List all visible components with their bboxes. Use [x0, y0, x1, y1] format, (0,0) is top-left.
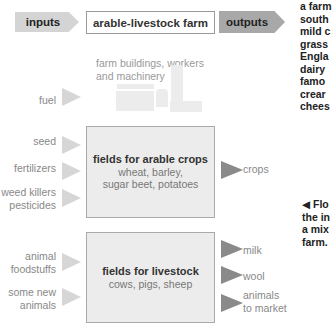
- seed-input-arrow-icon: [62, 136, 81, 154]
- fertilizers-input-arrow-icon: [62, 162, 81, 180]
- label-line: to market: [243, 302, 287, 315]
- arable-box-title: fields for arable crops: [93, 153, 208, 166]
- fuel-input-arrow-icon: [62, 88, 81, 106]
- label-line: animal: [11, 250, 56, 263]
- arable-box-line: sugar beet, potatoes: [103, 178, 199, 191]
- output-label-animals-to-market: animals to market: [243, 289, 287, 314]
- milk-output-arrow-icon: [221, 240, 243, 258]
- output-label-milk: milk: [243, 244, 262, 257]
- inputs-header-arrow: inputs: [15, 12, 79, 32]
- label-line: weed killers: [1, 186, 56, 199]
- caption-line: farm.: [302, 236, 330, 249]
- input-label-seed: seed: [33, 135, 56, 148]
- silo-icon: [171, 65, 183, 101]
- label-line: fertilizers: [14, 162, 56, 175]
- side-line: famo: [300, 75, 332, 88]
- inputs-header-label: inputs: [26, 16, 61, 28]
- diagram-title: arable-livestock farm: [86, 11, 215, 34]
- barn-icon: [116, 91, 154, 111]
- side-line: a farm: [300, 0, 332, 13]
- input-label-weed-killers: weed killers pesticides: [1, 186, 56, 211]
- farm-buildings-label: farm buildings, workers and machinery: [96, 57, 204, 83]
- diagram-title-text: arable-livestock farm: [93, 17, 208, 29]
- caption-line: ◀ Flo: [302, 198, 330, 211]
- side-line: dairy: [300, 63, 332, 76]
- label-line: foodstuffs: [11, 263, 56, 276]
- side-line: mild c: [300, 25, 332, 38]
- input-label-fuel: fuel: [39, 94, 56, 107]
- farm-buildings-label-line: and machinery: [96, 70, 204, 83]
- input-label-new-animals: some new animals: [8, 286, 56, 311]
- farm-buildings-label-line: farm buildings, workers: [96, 57, 204, 70]
- house-icon: [156, 89, 168, 107]
- weed-killers-input-arrow-icon: [62, 189, 81, 207]
- outputs-header-label: outputs: [226, 16, 268, 28]
- caption-line: the in: [302, 211, 330, 224]
- animals-to-market-output-arrow-icon: [221, 294, 243, 312]
- crops-output-arrow-icon: [221, 161, 243, 179]
- caption-line: a mix: [302, 223, 330, 236]
- input-label-animal-foodstuffs: animal foodstuffs: [11, 250, 56, 275]
- label-line: animals: [8, 299, 56, 312]
- side-line: grass: [300, 38, 332, 51]
- side-paragraph: a farm south mild c grass Engla dairy fa…: [300, 0, 332, 113]
- livestock-box: fields for livestock cows, pigs, sheep: [86, 232, 215, 323]
- side-line: crear: [300, 88, 332, 101]
- label-line: some new: [8, 286, 56, 299]
- side-line: Engla: [300, 50, 332, 63]
- label-line: pesticides: [1, 199, 56, 212]
- output-label-crops: crops: [243, 163, 269, 176]
- side-line: south: [300, 13, 332, 26]
- animal-foodstuffs-input-arrow-icon: [62, 253, 81, 271]
- wool-output-arrow-icon: [221, 266, 243, 284]
- label-line: seed: [33, 135, 56, 148]
- livestock-box-line: cows, pigs, sheep: [109, 278, 192, 291]
- figure-caption: ◀ Flo the in a mix farm.: [302, 198, 330, 248]
- label-line: animals: [243, 289, 287, 302]
- barn-roof: [117, 84, 154, 89]
- livestock-box-title: fields for livestock: [102, 265, 199, 278]
- arable-box-line: wheat, barley,: [118, 166, 183, 179]
- input-label-fertilizers: fertilizers: [14, 162, 56, 175]
- shed-icon: [170, 101, 202, 112]
- side-line: chees: [300, 100, 332, 113]
- output-label-wool: wool: [243, 270, 265, 283]
- outputs-header-arrow: outputs: [219, 11, 285, 33]
- new-animals-input-arrow-icon: [62, 288, 81, 306]
- arable-crops-box: fields for arable crops wheat, barley, s…: [86, 126, 215, 218]
